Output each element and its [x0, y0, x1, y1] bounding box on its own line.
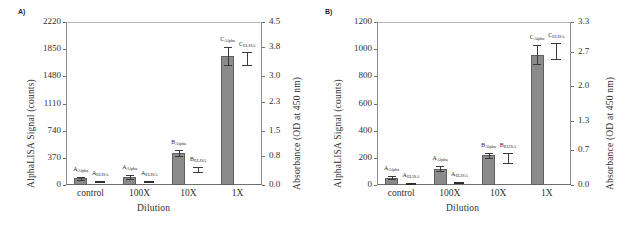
y2-tick-label: 3.8: [269, 41, 293, 51]
series-point-label: CELISA: [539, 32, 573, 38]
series-point-label: AELISA: [442, 171, 476, 177]
y2-tick-mark: [262, 185, 265, 186]
elisa-marker: [406, 183, 416, 185]
series-point-label: BELISA: [181, 156, 215, 162]
y-tick-mark: [63, 76, 66, 77]
panel-a: A) AlphaLISA Signal (counts) Absorbance …: [0, 0, 311, 230]
y-tick-mark: [63, 104, 66, 105]
figure-container: A) AlphaLISA Signal (counts) Absorbance …: [0, 0, 623, 230]
panel-b-x-axis-title: Dilution: [446, 203, 479, 213]
elisa-error-cap: [503, 163, 513, 164]
y2-tick-label: 1.3: [578, 115, 602, 125]
alphalisa-error-cap: [533, 45, 541, 46]
y-tick-mark: [374, 131, 377, 132]
elisa-marker: [454, 182, 464, 184]
y2-tick-label: 2.3: [269, 96, 293, 106]
alphalisa-error-cap: [77, 180, 85, 181]
y-tick-label: 1200: [331, 16, 372, 26]
y2-tick-label: 0.0: [578, 179, 602, 189]
series-point-label: AELISA: [132, 170, 166, 176]
alphalisa-bar: [531, 55, 544, 185]
y-tick-label: 370: [20, 152, 61, 162]
y-tick-mark: [374, 49, 377, 50]
alphalisa-error-cap: [175, 150, 183, 151]
y2-tick-mark: [571, 86, 574, 87]
y2-tick-mark: [262, 22, 265, 23]
elisa-error-cap: [242, 65, 252, 66]
y2-tick-label: 0.7: [578, 144, 602, 154]
y2-tick-label: 2.7: [578, 46, 602, 56]
y2-tick-label: 4.5: [269, 16, 293, 26]
y-tick-label: 400: [331, 125, 372, 135]
y2-tick-mark: [262, 131, 265, 132]
alphalisa-error-cap: [388, 179, 396, 180]
y-tick-mark: [374, 185, 377, 186]
y-tick-mark: [374, 22, 377, 23]
panel-b-right-axis-title: Absorbance (OD at 450 nm): [605, 77, 615, 190]
y-tick-label: 1110: [20, 98, 61, 108]
elisa-error-cap: [551, 43, 561, 44]
y-tick-mark: [374, 158, 377, 159]
y2-tick-mark: [571, 121, 574, 122]
elisa-error-cap: [503, 153, 513, 154]
alphalisa-error-cap: [224, 65, 232, 66]
panel-a-label: A): [18, 8, 25, 15]
y-tick-label: 2220: [20, 16, 61, 26]
alphalisa-error-cap: [77, 177, 85, 178]
elisa-error-cap: [193, 167, 203, 168]
y2-tick-label: 1.5: [269, 125, 293, 135]
panel-a-x-axis-title: Dilution: [137, 203, 170, 213]
series-point-label: AAlpha: [423, 155, 457, 161]
y-tick-label: 1000: [331, 43, 372, 53]
x-category-label: 1X: [208, 188, 268, 198]
y-tick-label: 1850: [20, 43, 61, 53]
alphalisa-error-bar: [228, 47, 229, 65]
alphalisa-error-bar: [537, 45, 538, 64]
y-tick-label: 0: [331, 179, 372, 189]
series-point-label: AAlpha: [375, 165, 409, 171]
y2-tick-label: 3.3: [578, 16, 602, 26]
y2-tick-mark: [571, 52, 574, 53]
series-point-label: BELISA: [491, 142, 525, 148]
y-tick-label: 0: [20, 179, 61, 189]
x-category-label: 1X: [517, 188, 577, 198]
y-tick-mark: [63, 158, 66, 159]
elisa-marker: [95, 181, 105, 183]
elisa-error-bar: [247, 52, 248, 65]
y-tick-mark: [63, 49, 66, 50]
y2-tick-label: 0.8: [269, 150, 293, 160]
alphalisa-error-cap: [485, 158, 493, 159]
y-tick-mark: [63, 185, 66, 186]
alphalisa-error-cap: [126, 179, 134, 180]
elisa-error-cap: [193, 172, 203, 173]
alphalisa-error-cap: [224, 47, 232, 48]
y-tick-label: 1480: [20, 70, 61, 80]
y-tick-mark: [63, 22, 66, 23]
y-tick-label: 740: [20, 125, 61, 135]
y2-tick-mark: [262, 102, 265, 103]
panel-a-right-axis-title: Absorbance (OD at 450 nm): [292, 77, 302, 190]
panel-b: B) AlphaLISA Signal (counts) Absorbance …: [311, 0, 623, 230]
y-tick-label: 200: [331, 152, 372, 162]
y2-tick-mark: [262, 76, 265, 77]
alphalisa-error-cap: [533, 64, 541, 65]
series-point-label: CELISA: [230, 41, 264, 47]
series-point-label: BAlpha: [162, 139, 196, 145]
panel-b-label: B): [325, 8, 332, 15]
y2-tick-mark: [571, 22, 574, 23]
y2-tick-label: 0.0: [269, 179, 293, 189]
elisa-marker: [144, 181, 154, 183]
alphalisa-error-cap: [436, 166, 444, 167]
elisa-error-bar: [556, 43, 557, 59]
elisa-error-cap: [242, 52, 252, 53]
y-tick-mark: [374, 104, 377, 105]
y2-tick-mark: [262, 47, 265, 48]
series-point-label: AELISA: [394, 172, 428, 178]
y2-tick-label: 3.0: [269, 70, 293, 80]
y2-tick-mark: [571, 185, 574, 186]
y-tick-label: 600: [331, 98, 372, 108]
series-point-label: AELISA: [83, 170, 117, 176]
alphalisa-error-cap: [485, 153, 493, 154]
elisa-error-bar: [508, 153, 509, 163]
y2-tick-mark: [262, 156, 265, 157]
